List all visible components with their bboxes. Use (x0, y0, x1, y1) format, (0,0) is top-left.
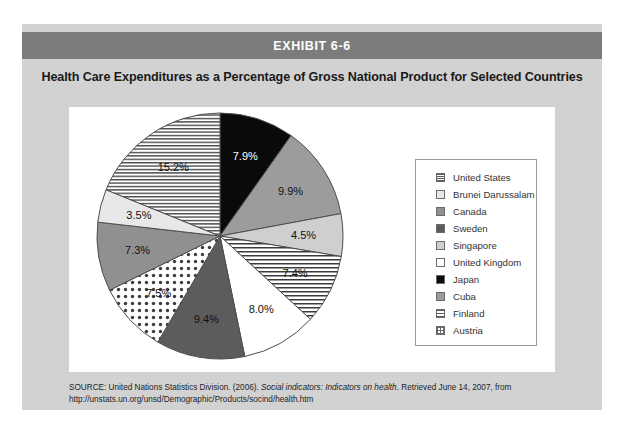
legend-item[interactable]: Japan (416, 271, 536, 288)
legend-swatch-white-icon (436, 258, 445, 267)
pie-slice-value-label: 8.0% (249, 303, 274, 315)
legend-swatch-midgrey-icon (436, 292, 445, 301)
exhibit-card: EXHIBIT 6-6 Health Care Expenditures as … (22, 24, 602, 410)
chart-panel: 7.9%9.9%4.5%7.4%8.0%9.4%7.5%7.3%3.5%15.2… (69, 107, 555, 372)
source-prefix: SOURCE: United Nations Statistics Divisi… (69, 383, 261, 392)
legend-swatch-medgrey-icon (436, 207, 445, 216)
exhibit-number-label: EXHIBIT 6-6 (273, 39, 350, 53)
legend-item-label: United States (453, 173, 511, 183)
exhibit-title: Health Care Expenditures as a Percentage… (22, 70, 602, 84)
legend-item[interactable]: Finland (416, 305, 536, 322)
legend-item-label: Japan (453, 275, 479, 285)
pie-slice-value-label: 15.2% (158, 161, 189, 173)
legend-item[interactable]: United Kingdom (416, 254, 536, 271)
legend-items-list: United StatesBrunei DarussalamCanadaSwed… (416, 169, 536, 339)
legend-item[interactable]: Cuba (416, 288, 536, 305)
legend-item-label: Singapore (453, 241, 497, 251)
legend-item[interactable]: Sweden (416, 220, 536, 237)
legend-item[interactable]: Canada (416, 203, 536, 220)
pie-slice-value-label: 3.5% (126, 209, 151, 221)
source-note: SOURCE: United Nations Statistics Divisi… (69, 382, 599, 406)
source-title-italic: Social indicators: Indicators on health (261, 383, 397, 392)
legend-item[interactable]: Singapore (416, 237, 536, 254)
legend-item-label: Cuba (453, 292, 476, 302)
legend-swatch-hstripe-fine-icon (436, 173, 445, 182)
legend-swatch-lightgrey-icon (436, 241, 445, 250)
pie-slice-value-label: 7.4% (283, 267, 308, 279)
legend-item-label: Brunei Darussalam (453, 190, 535, 200)
legend-item-label: Canada (453, 207, 487, 217)
pie-slice-value-label: 4.5% (291, 229, 316, 241)
legend-swatch-verylight-icon (436, 190, 445, 199)
legend-item-label: Finland (453, 309, 484, 319)
legend-swatch-darkgrey-icon (436, 224, 445, 233)
legend-item[interactable]: Brunei Darussalam (416, 186, 536, 203)
exhibit-header-band: EXHIBIT 6-6 (22, 32, 602, 59)
legend-swatch-hstripe-icon (436, 309, 445, 318)
pie-slice-value-label: 7.3% (125, 244, 150, 256)
pie-slice-value-label: 9.4% (194, 313, 219, 325)
pie-slice-value-label: 7.9% (233, 150, 258, 162)
legend-swatch-grid-icon (436, 326, 445, 335)
legend-item[interactable]: United States (416, 169, 536, 186)
pie-slice-value-label: 7.5% (146, 287, 171, 299)
legend-item-label: Austria (453, 326, 483, 336)
pie-chart-svg: 7.9%9.9%4.5%7.4%8.0%9.4%7.5%7.3%3.5%15.2… (87, 111, 357, 369)
legend-item-label: Sweden (453, 224, 488, 234)
pie-slice-value-label: 9.9% (278, 185, 303, 197)
legend-swatch-black-icon (436, 275, 445, 284)
pie-chart-area: 7.9%9.9%4.5%7.4%8.0%9.4%7.5%7.3%3.5%15.2… (69, 107, 369, 372)
chart-legend: United StatesBrunei DarussalamCanadaSwed… (415, 159, 537, 346)
legend-item-label: United Kingdom (453, 258, 521, 268)
exhibit-page: EXHIBIT 6-6 Health Care Expenditures as … (0, 0, 624, 433)
legend-item[interactable]: Austria (416, 322, 536, 339)
